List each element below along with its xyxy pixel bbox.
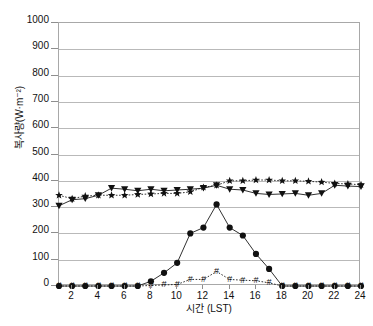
y-axis-title: 복사량(W·m⁻²) [14, 63, 25, 173]
x-tick-mark [71, 285, 72, 289]
x-tick-mark [360, 285, 361, 289]
y-tick-label: 200 [32, 225, 49, 235]
y-tick-mark [51, 101, 58, 102]
data-point-circle [174, 260, 180, 266]
x-tick-label: 24 [350, 290, 370, 301]
data-point-hash: # [240, 275, 245, 285]
series-hash-line [59, 272, 361, 286]
y-tick-label: 0 [43, 278, 49, 288]
x-tick-label: 2 [61, 290, 81, 301]
data-point-star [134, 190, 142, 197]
data-point-hash: # [227, 274, 232, 284]
y-tick-label: 300 [32, 199, 49, 209]
data-point-star [305, 177, 313, 184]
y-tick-label: 100 [32, 252, 49, 262]
data-point-circle [187, 230, 193, 236]
x-tick-mark [281, 285, 282, 289]
series-star-line [59, 180, 361, 199]
x-tick-label: 22 [324, 290, 344, 301]
x-tick-mark [150, 285, 151, 289]
data-point-star [252, 176, 260, 183]
series-layer: ######################## [59, 23, 361, 286]
y-tick-mark [51, 75, 58, 76]
data-point-circle [213, 201, 219, 207]
x-tick-label: 16 [245, 290, 265, 301]
x-tick-mark [176, 285, 177, 289]
x-tick-label: 20 [298, 290, 318, 301]
y-tick-mark [51, 127, 58, 128]
y-tick-mark [51, 232, 58, 233]
series-triangle [55, 182, 364, 209]
y-tick-mark [51, 180, 58, 181]
x-tick-label: 8 [140, 290, 160, 301]
data-point-star [239, 177, 247, 184]
data-point-triangle-down [305, 192, 312, 198]
plot-area: ######################## [58, 22, 360, 285]
x-tick-mark [124, 285, 125, 289]
data-point-circle [200, 225, 206, 231]
x-tick-label: 18 [271, 290, 291, 301]
data-point-circle [161, 270, 167, 276]
data-point-star [147, 190, 155, 197]
data-point-star [121, 191, 129, 198]
data-point-circle [240, 232, 246, 238]
data-point-star [108, 191, 116, 198]
x-tick-label: 6 [114, 290, 134, 301]
x-tick-mark [229, 285, 230, 289]
y-tick-mark [51, 206, 58, 207]
x-axis-title: 시간 (LST) [58, 303, 360, 314]
x-tick-mark [255, 285, 256, 289]
data-point-star [278, 177, 286, 184]
data-point-star [318, 178, 326, 185]
series-circle [56, 201, 364, 289]
y-tick-mark [51, 154, 58, 155]
x-tick-label: 14 [219, 290, 239, 301]
y-tick-label: 400 [32, 173, 49, 183]
x-tick-mark [202, 285, 203, 289]
y-tick-label: 500 [32, 147, 49, 157]
y-tick-mark [51, 48, 58, 49]
x-tick-mark [97, 285, 98, 289]
data-point-hash: # [201, 274, 206, 284]
x-tick-mark [334, 285, 335, 289]
data-point-circle [253, 251, 259, 257]
data-point-star [226, 177, 234, 184]
series-circle-line [59, 204, 361, 286]
y-tick-label: 800 [32, 68, 49, 78]
y-axis: 01002003004005006007008009001000 [0, 22, 58, 285]
y-tick-label: 1000 [27, 15, 49, 25]
data-point-hash: # [188, 274, 193, 284]
y-tick-label: 900 [32, 41, 49, 51]
x-tick-label: 4 [87, 290, 107, 301]
y-tick-label: 700 [32, 94, 49, 104]
data-point-star [292, 177, 300, 184]
chart-figure: 01002003004005006007008009001000 복사량(W·m… [0, 0, 373, 326]
x-tick-mark [308, 285, 309, 289]
y-tick-mark [51, 259, 58, 260]
x-tick-label: 10 [166, 290, 186, 301]
data-point-circle [227, 225, 233, 231]
data-point-hash: # [253, 275, 258, 285]
series-star [55, 176, 365, 202]
data-point-hash: # [214, 266, 219, 276]
data-point-circle [266, 266, 272, 272]
data-point-star [265, 176, 273, 183]
y-tick-label: 600 [32, 120, 49, 130]
y-tick-mark [51, 22, 58, 23]
x-tick-label: 12 [192, 290, 212, 301]
